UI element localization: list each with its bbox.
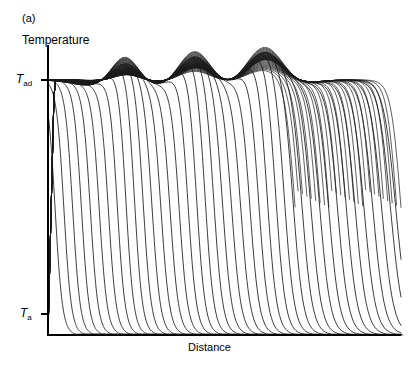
y-tick-label-ta: Ta <box>20 306 32 322</box>
envelope-crest-curve <box>48 55 366 335</box>
temperature-profile-curve <box>48 57 297 335</box>
envelope-crest-curve <box>48 48 397 335</box>
temperature-profile-curve <box>48 60 332 335</box>
envelope-crest-curve <box>48 50 388 335</box>
temperature-profile-curve <box>48 56 401 334</box>
temperature-profile-curve <box>48 55 401 334</box>
temperature-profile-curve <box>48 58 401 335</box>
envelope-crest-curve <box>48 57 354 335</box>
temperature-distance-plot <box>0 0 419 373</box>
temperature-profile-curve <box>48 54 359 335</box>
y-axis-ticks <box>41 80 48 314</box>
temperature-profile-curve <box>48 59 401 326</box>
envelope-crest-curve <box>48 58 350 335</box>
temperature-profile-curve <box>48 67 262 335</box>
temperature-profile-curve <box>48 64 279 336</box>
figure-panel-a: (a) Temperature Distance Tad Ta <box>0 0 419 373</box>
panel-label: (a) <box>22 12 35 24</box>
x-axis-title: Distance <box>0 341 419 353</box>
temperature-profile-curve <box>48 61 341 335</box>
temperature-profile-curve <box>48 60 350 335</box>
ta-subscript: a <box>27 313 31 322</box>
temperature-profile-curve <box>48 64 226 335</box>
y-tick-label-tad: Tad <box>16 72 32 88</box>
envelope-crest-curve <box>48 65 320 335</box>
envelope-crest-curve <box>48 68 302 335</box>
tad-subscript: ad <box>23 79 32 88</box>
temperature-profile-curve <box>48 57 401 335</box>
envelope-crest-curve <box>48 62 332 335</box>
temperature-profile-curve <box>48 65 244 335</box>
envelope-crest-curve <box>48 47 401 335</box>
envelope-crest-curve <box>48 63 329 335</box>
profile-curve-group <box>48 47 403 335</box>
y-axis-title: Temperature <box>22 33 89 47</box>
envelope-crest-curve <box>48 60 341 335</box>
temperature-profile-curve <box>48 58 401 333</box>
